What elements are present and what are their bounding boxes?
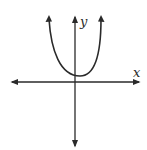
- curve-left-arrow-icon: [46, 15, 53, 22]
- curve-right-arrow-icon: [98, 15, 105, 22]
- x-axis-label: x: [133, 65, 141, 80]
- graph-canvas: y x: [0, 0, 147, 150]
- y-axis-label: y: [79, 14, 88, 29]
